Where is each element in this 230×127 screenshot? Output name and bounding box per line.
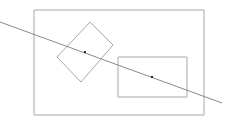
geometry-diagram [0,0,230,127]
center-point-marker [84,51,86,53]
center-point-marker [151,76,153,78]
